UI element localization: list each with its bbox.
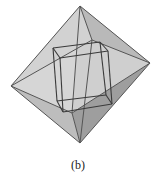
octahedron-cube-diagram: [0, 0, 156, 150]
figure-caption: (b): [0, 158, 156, 173]
